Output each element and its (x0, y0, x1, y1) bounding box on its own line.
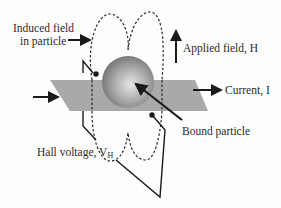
induced-field-label-line1: Induced field (13, 22, 74, 34)
applied-field-label: Applied field, H (183, 42, 258, 55)
current-text: Current, I (225, 84, 270, 96)
hall-voltage-label: Hall voltage, VH (37, 146, 113, 162)
applied-field-text: Applied field, H (183, 42, 258, 54)
bound-particle-text: Bound particle (182, 125, 250, 137)
bound-particle-label: Bound particle (182, 125, 250, 138)
current-label: Current, I (225, 84, 270, 97)
hall-voltage-text: Hall voltage, V (37, 146, 107, 158)
hall-voltage-subscript: H (107, 151, 113, 160)
hall-effect-diagram: Induced field in particle Applied field,… (0, 0, 281, 208)
induced-field-label: Induced field (13, 22, 74, 35)
induced-field-label-line2: in particle (20, 35, 66, 47)
magnetic-particle (102, 56, 154, 108)
induced-field-label-2: in particle (20, 35, 66, 48)
